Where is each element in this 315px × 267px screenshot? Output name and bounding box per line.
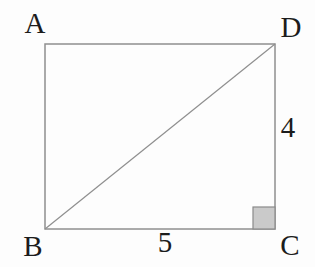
right-angle-marker — [253, 207, 275, 229]
geometry-figure: A D B C 5 4 — [0, 0, 315, 267]
vertex-label-a: A — [25, 9, 46, 38]
side-length-label-cd: 4 — [281, 113, 296, 142]
vertex-label-c: C — [280, 231, 299, 260]
vertex-label-b: B — [23, 232, 42, 261]
diagonal-bd — [45, 44, 275, 229]
side-length-label-bc: 5 — [158, 228, 173, 257]
vertex-label-d: D — [281, 13, 302, 42]
